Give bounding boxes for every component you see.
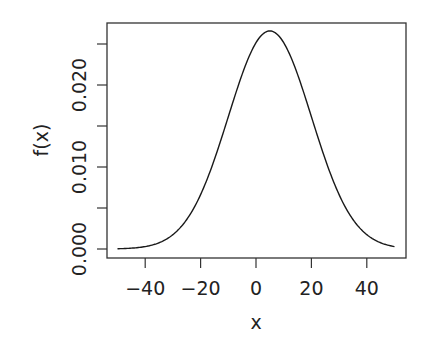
y-tick-label: 0.020 bbox=[68, 58, 90, 112]
y-axis-label: f(x) bbox=[30, 124, 52, 157]
y-tick-label: 0.000 bbox=[68, 222, 90, 276]
x-tick-label: −40 bbox=[125, 277, 165, 299]
x-tick-label: 40 bbox=[355, 277, 379, 299]
x-tick-label: 20 bbox=[299, 277, 323, 299]
x-tick-label: −20 bbox=[181, 277, 221, 299]
y-tick-label: 0.010 bbox=[68, 140, 90, 194]
x-tick-label: 0 bbox=[250, 277, 262, 299]
x-axis-label: x bbox=[250, 311, 261, 333]
density-plot: 0.0000.0100.020 −40−2002040 x f(x) bbox=[0, 0, 427, 340]
density-curve bbox=[118, 31, 395, 249]
y-axis: 0.0000.0100.020 bbox=[68, 44, 107, 276]
x-axis: −40−2002040 bbox=[125, 258, 379, 299]
plot-frame bbox=[107, 23, 406, 258]
